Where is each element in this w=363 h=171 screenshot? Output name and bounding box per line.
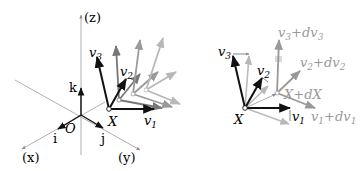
v3-label-left: v3 — [89, 45, 102, 62]
origin-label: O — [65, 121, 76, 136]
j-vector — [81, 115, 103, 128]
X-label-left: X — [107, 114, 118, 129]
v1-label-right: v1 — [292, 109, 305, 126]
i-label: i — [53, 131, 57, 146]
point-X — [107, 107, 112, 112]
j-label: j — [99, 131, 105, 146]
moving-frame-diagram: (z) (x) (y) O k i j X v3 v2 v1 X v3 v2 v… — [0, 0, 363, 171]
X-plus-dX-label: X+dX — [283, 87, 322, 102]
v3-plus-dv3-vector — [277, 40, 279, 93]
coordinate-axes — [15, 15, 140, 155]
point-X-right — [243, 106, 248, 111]
v3-vector — [97, 57, 109, 109]
x-axis-label: (x) — [22, 150, 39, 165]
v2-label-left: v2 — [120, 64, 133, 81]
v3-vector-right — [233, 56, 245, 108]
ghost-frame-3 — [144, 38, 180, 104]
v3-label-right: v3 — [218, 44, 231, 61]
z-axis-label: (z) — [84, 10, 101, 25]
k-label: k — [69, 80, 77, 95]
y-axis-label: (y) — [118, 150, 136, 165]
v3-plus-dv3-label: v3+dv3 — [278, 25, 324, 42]
v2-label-right: v2 — [257, 63, 270, 80]
y-axis — [15, 80, 140, 150]
X-label-right: X — [233, 112, 244, 127]
v2-plus-dv2-label: v2+dv2 — [300, 55, 346, 72]
v1-label-left: v1 — [144, 113, 157, 130]
v1-plus-dv1-label: v1+dv1 — [311, 109, 356, 126]
